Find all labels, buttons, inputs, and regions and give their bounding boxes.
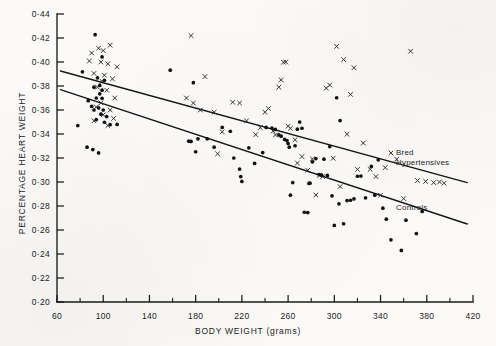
y-tick-label: 0·36 — [10, 105, 50, 115]
y-tick-label: 0·20 — [10, 297, 50, 307]
y-axis-title: PERCENTAGE HEART WEIGHT — [17, 63, 27, 263]
x-tick-label: 100 — [96, 311, 111, 321]
x-tick-label: 220 — [234, 311, 249, 321]
x-tick-label: 340 — [373, 311, 388, 321]
y-tick-label: 0·42 — [10, 33, 50, 43]
y-tick-label: 0·40 — [10, 57, 50, 67]
x-tick-label: 420 — [465, 311, 480, 321]
y-tick-label: 0·28 — [10, 201, 50, 211]
y-tick-label: 0·34 — [10, 129, 50, 139]
x-tick-label: 140 — [142, 311, 157, 321]
scatter-plot-figure: 60100140180220260300340380420 0·440·420·… — [0, 0, 496, 346]
x-tick-label: 300 — [327, 311, 342, 321]
y-tick-label: 0·38 — [10, 81, 50, 91]
series-points-bred-hypertensives — [87, 33, 446, 201]
series-label-bred-hypertensives: Bred Hypertensives — [396, 148, 449, 168]
x-tick-label: 60 — [52, 311, 62, 321]
y-tick-label: 0·24 — [10, 249, 50, 259]
y-tick-label: 0·22 — [10, 273, 50, 283]
y-tick-label: 0·26 — [10, 225, 50, 235]
y-tick-label: 0·32 — [10, 153, 50, 163]
plot-canvas — [0, 0, 496, 346]
series-label-controls: Controls — [396, 203, 427, 213]
x-axis-title: BODY WEIGHT (grams) — [0, 326, 496, 336]
x-tick-label: 380 — [419, 311, 434, 321]
series-label-line2: Hypertensives — [396, 158, 449, 168]
series-points-controls — [76, 33, 424, 252]
y-tick-label: 0·44 — [10, 9, 50, 19]
x-tick-label: 180 — [188, 311, 203, 321]
series-label-line1: Bred — [396, 148, 449, 158]
y-tick-label: 0·30 — [10, 177, 50, 187]
x-tick-label: 260 — [281, 311, 296, 321]
